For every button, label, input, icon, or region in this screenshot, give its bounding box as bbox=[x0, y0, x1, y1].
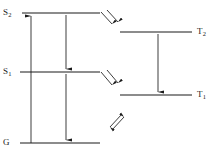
level-label-s2-sub: 2 bbox=[8, 11, 11, 18]
intersystem-crossing-s2-t2-icon bbox=[101, 10, 118, 24]
level-label-t2: T2 bbox=[197, 27, 206, 36]
intersystem-crossing-s1-t1-icon bbox=[101, 70, 118, 85]
level-label-s2: S2 bbox=[3, 8, 11, 17]
level-label-t2-sub: 2 bbox=[203, 30, 206, 37]
level-label-t1-text: T bbox=[197, 89, 203, 99]
level-label-t2-text: T bbox=[197, 26, 203, 36]
level-label-t1: T1 bbox=[197, 90, 206, 99]
level-label-t1-sub: 1 bbox=[203, 93, 206, 100]
reverse-intersystem-crossing-icon bbox=[110, 114, 124, 130]
diagram-canvas bbox=[0, 0, 215, 156]
level-label-s1: S1 bbox=[3, 67, 11, 76]
level-label-ground-text: G bbox=[3, 137, 10, 147]
level-label-s1-sub: 1 bbox=[8, 70, 11, 77]
level-label-ground: G bbox=[3, 138, 10, 147]
jablonski-diagram: S2 S1 G T2 T1 bbox=[0, 0, 215, 156]
